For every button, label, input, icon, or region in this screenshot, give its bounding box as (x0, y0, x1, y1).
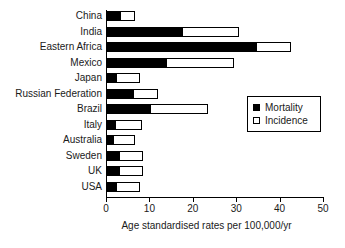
y-axis-category-label: Japan (0, 72, 102, 83)
x-axis-tick-label: 0 (91, 203, 121, 215)
y-axis-category-label: Brazil (0, 103, 102, 114)
x-axis-tick (193, 198, 194, 202)
x-axis-tick (236, 198, 237, 202)
bar-group (107, 104, 208, 114)
x-axis-tick-label: 30 (221, 203, 251, 215)
bar-mortality (107, 58, 167, 68)
x-axis-line (106, 197, 324, 198)
y-axis-category-label: Australia (0, 134, 102, 145)
bar-group (107, 73, 140, 83)
bar-mortality (107, 120, 116, 130)
x-axis-tick (280, 198, 281, 202)
bar-mortality (107, 182, 117, 192)
y-axis-category-label: Eastern Africa (0, 41, 102, 52)
y-axis-category-label: UK (0, 165, 102, 176)
bar-mortality (107, 166, 120, 176)
filled-square-icon (253, 104, 260, 111)
y-axis-category-label: India (0, 26, 102, 37)
bar-group (107, 182, 140, 192)
y-axis-category-label: Russian Federation (0, 88, 102, 99)
bar-group (107, 151, 143, 161)
x-axis-tick (323, 198, 324, 202)
y-axis-category-label: Sweden (0, 150, 102, 161)
open-square-icon (253, 117, 260, 124)
x-axis-tick-label: 50 (308, 203, 338, 215)
legend-label-incidence: Incidence (265, 114, 308, 127)
bar-mortality (107, 104, 151, 114)
y-axis-category-label: USA (0, 181, 102, 192)
legend-item-mortality: Mortality (253, 101, 315, 114)
bar-group (107, 11, 135, 21)
bar-group (107, 27, 239, 37)
bar-group (107, 135, 135, 145)
x-axis-tick-label: 20 (178, 203, 208, 215)
y-axis-category-label: Mexico (0, 57, 102, 68)
x-axis-tick-label: 40 (265, 203, 295, 215)
bar-mortality (107, 135, 114, 145)
x-axis-title-text: Age standardised rates per 100,000/yr (53, 220, 291, 231)
chart-legend: Mortality Incidence (247, 96, 321, 132)
legend-label-mortality: Mortality (265, 101, 303, 114)
bar-group (107, 166, 143, 176)
y-axis-category-label: China (0, 10, 102, 21)
bar-group (107, 120, 142, 130)
bar-mortality (107, 89, 134, 99)
x-axis-tick-label: 10 (134, 203, 164, 215)
bar-mortality (107, 151, 120, 161)
bar-mortality (107, 11, 121, 21)
bar-mortality (107, 73, 117, 83)
bar-group (107, 58, 234, 68)
bar-mortality (107, 42, 257, 52)
bar-mortality (107, 27, 183, 37)
bar-group (107, 89, 158, 99)
bar-group (107, 42, 291, 52)
x-axis-tick (149, 198, 150, 202)
x-axis-title: Age standardised rates per 100,000/yr (0, 220, 345, 232)
y-axis-category-label: Italy (0, 119, 102, 130)
x-axis-tick (106, 198, 107, 202)
legend-item-incidence: Incidence (253, 114, 315, 127)
bar-chart: 01020304050 ChinaIndiaEastern AfricaMexi… (0, 0, 345, 248)
